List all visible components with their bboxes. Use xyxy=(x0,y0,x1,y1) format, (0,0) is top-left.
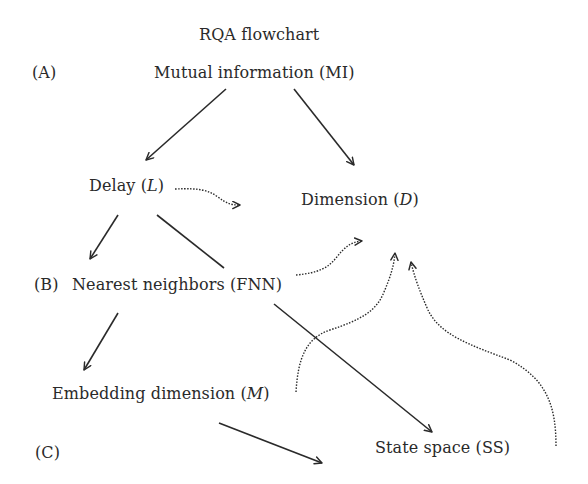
section-label-a: (A) xyxy=(32,63,56,83)
arrow-delay-to-fnn xyxy=(90,215,118,259)
dotted-arrow-embedding-to-dimension xyxy=(296,253,395,392)
node-embedding-suffix: ) xyxy=(263,384,269,403)
node-state-space: State space (SS) xyxy=(375,438,510,458)
line-delay-to-fnn-segment xyxy=(157,215,224,268)
node-delay-var: L xyxy=(147,176,158,195)
arrow-fnn-to-state-space xyxy=(274,304,432,432)
node-embedding-dimension: Embedding dimension (M) xyxy=(52,384,270,404)
dotted-arrow-fnn-to-dimension xyxy=(296,241,362,275)
dotted-arrow-state-space-to-dimension xyxy=(411,262,556,446)
section-label-c: (C) xyxy=(35,443,60,463)
arrow-mi-to-dimension xyxy=(294,89,354,165)
node-dimension-var: D xyxy=(400,190,413,209)
node-dimension-suffix: ) xyxy=(413,190,419,209)
node-delay-suffix: ) xyxy=(158,176,164,195)
node-embedding-var: M xyxy=(247,384,263,403)
arrow-fnn-to-embedding xyxy=(84,313,118,370)
node-nearest-neighbors: Nearest neighbors (FNN) xyxy=(72,275,282,295)
dotted-arrow-delay-to-dimension xyxy=(175,189,240,205)
node-delay-prefix: Delay ( xyxy=(89,176,147,195)
node-embedding-prefix: Embedding dimension ( xyxy=(52,384,247,403)
arrow-mi-to-delay xyxy=(146,89,226,160)
rqa-flowchart-diagram: RQA flowchart (A) Mutual information (MI… xyxy=(0,0,588,484)
section-label-b: (B) xyxy=(34,275,59,295)
node-mutual-information: Mutual information (MI) xyxy=(154,63,355,83)
node-dimension: Dimension (D) xyxy=(301,190,419,210)
node-dimension-prefix: Dimension ( xyxy=(301,190,400,209)
arrow-embedding-to-state-space xyxy=(219,423,322,463)
flowchart-title: RQA flowchart xyxy=(199,25,319,45)
node-delay: Delay (L) xyxy=(89,176,164,196)
